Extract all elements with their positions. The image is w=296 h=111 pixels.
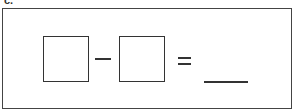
operand2-box[interactable] [119,36,165,82]
operand1-box[interactable] [43,36,89,82]
answer-blank[interactable] [204,81,248,83]
equals-sign-bottom [178,63,191,65]
problem-label: c. [4,0,13,6]
minus-sign [95,58,111,60]
equals-sign-top [178,57,191,59]
